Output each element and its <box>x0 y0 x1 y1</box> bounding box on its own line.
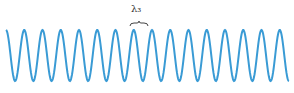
wavelength-brace <box>130 21 148 26</box>
wavelength-label: λ₃ <box>131 3 141 14</box>
wavelength-diagram <box>0 0 294 93</box>
sine-wave <box>6 30 289 81</box>
